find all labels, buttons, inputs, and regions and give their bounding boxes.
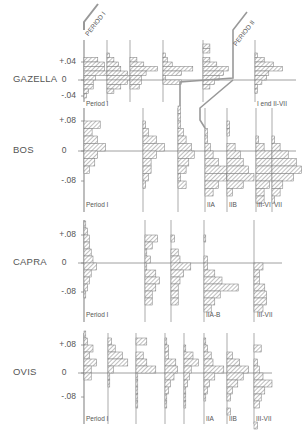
histogram-bar <box>165 352 169 359</box>
histogram-bar <box>272 144 280 152</box>
column-label: I end II-VII <box>257 100 287 107</box>
histogram-bar <box>204 263 208 270</box>
histogram-bar <box>178 129 183 137</box>
histogram-bar <box>227 387 232 394</box>
histogram-bar <box>130 76 142 81</box>
histogram-bar <box>205 174 227 182</box>
histogram-bar <box>136 380 138 387</box>
histogram-column <box>272 108 302 212</box>
histogram-bar <box>130 71 146 76</box>
histogram-bar <box>84 129 92 137</box>
histogram-bar <box>171 277 180 284</box>
histogram-bar <box>108 352 122 359</box>
histogram-bar <box>84 345 93 352</box>
histogram-bar <box>272 181 283 189</box>
histogram-bar <box>84 144 106 152</box>
histogram-bar <box>178 151 194 159</box>
histogram-bar <box>165 366 178 373</box>
histogram-bar <box>143 166 151 174</box>
histogram-bar <box>204 277 222 284</box>
column-label: III-VII <box>256 415 272 422</box>
histogram-bar <box>171 298 178 305</box>
histogram-bar <box>204 345 208 352</box>
histogram-bar <box>108 366 113 373</box>
histogram-column <box>108 333 128 424</box>
histogram-bar <box>254 277 259 284</box>
histogram-bar <box>227 166 249 174</box>
column-label: III-VI <box>257 201 271 208</box>
histogram-bar <box>255 67 283 72</box>
histogram-bar <box>145 256 150 263</box>
panel-bos <box>78 106 302 212</box>
histogram-column <box>254 220 267 322</box>
histogram-bar <box>184 394 186 401</box>
histogram-column <box>171 220 191 322</box>
histogram-bar <box>171 235 175 242</box>
histogram-bar <box>163 58 168 63</box>
histogram-bar <box>84 366 91 373</box>
column-label: Period I <box>86 201 108 208</box>
panel-capra <box>78 220 282 322</box>
histogram-bar <box>143 159 151 167</box>
histogram-bar <box>171 284 178 291</box>
column-label: Period I <box>86 311 108 318</box>
histogram-bar <box>165 373 174 380</box>
histogram-bar <box>205 136 208 144</box>
histogram-bar <box>84 373 91 380</box>
histogram-bar <box>145 242 152 249</box>
species-label-bos: BOS <box>13 144 34 155</box>
histogram-bar <box>184 366 191 373</box>
histogram-bar <box>272 166 302 174</box>
histogram-bar <box>108 338 112 345</box>
histogram-bar <box>163 80 181 85</box>
histogram-bar <box>255 62 273 67</box>
histogram-bar <box>203 85 210 90</box>
histogram-bar <box>84 291 86 298</box>
histogram-bar <box>136 352 143 359</box>
histogram-bar <box>227 352 232 359</box>
histogram-bar <box>136 401 138 408</box>
histogram-bar <box>204 366 224 373</box>
histogram-bar <box>255 71 269 76</box>
species-label-gazella: GAZELLA <box>13 73 57 84</box>
histogram-column <box>163 40 193 102</box>
histogram-column <box>84 331 97 424</box>
histogram-panels <box>78 40 302 429</box>
histogram-bar <box>255 80 262 85</box>
histogram-bar <box>254 387 265 394</box>
y-tick-label: -.08 <box>52 286 76 296</box>
histogram-column <box>84 220 97 322</box>
histogram-bar <box>107 62 119 67</box>
histogram-bar <box>163 53 165 58</box>
histogram-bar <box>165 338 167 345</box>
histogram-bar <box>107 80 128 85</box>
histogram-bar <box>171 256 180 263</box>
histogram-bar <box>84 151 98 159</box>
histogram-bar <box>272 159 296 167</box>
histogram-bar <box>184 380 188 387</box>
histogram-bar <box>204 256 208 263</box>
panel-gazella <box>78 40 296 102</box>
histogram-bar <box>254 291 267 298</box>
histogram-bar <box>84 270 91 277</box>
histogram-bar <box>130 67 158 72</box>
histogram-bar <box>254 366 259 373</box>
histogram-bar <box>254 359 258 366</box>
histogram-bar <box>256 151 272 159</box>
histogram-bar <box>254 422 258 429</box>
species-label-capra: CAPRA <box>13 256 47 267</box>
histogram-bar <box>256 189 264 197</box>
histogram-column <box>178 106 194 212</box>
histogram-bar <box>171 263 191 270</box>
histogram-bar <box>84 338 88 345</box>
histogram-bar <box>136 359 147 366</box>
histogram-bar <box>227 189 232 197</box>
histogram-bar <box>184 401 186 408</box>
histogram-bar <box>136 394 138 401</box>
histogram-column <box>84 108 106 212</box>
histogram-bar <box>130 85 139 90</box>
histogram-bar <box>107 71 128 76</box>
histogram-column <box>165 333 178 424</box>
histogram-column <box>136 333 156 424</box>
histogram-bar <box>254 270 259 277</box>
